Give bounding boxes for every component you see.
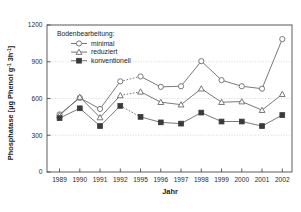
xtick-label-2001: 2001 [255,176,270,183]
datapoint-konventionell-2000 [239,119,244,124]
xtick-label-1997: 1997 [174,176,189,183]
datapoint-minimal-2001 [259,86,264,91]
datapoint-minimal-2000 [239,84,244,89]
xtick-label-1999: 1999 [214,176,229,183]
ytick-label-0: 0 [39,168,43,175]
datapoint-minimal-1992 [118,79,123,84]
xtick-label-1990: 1990 [72,176,87,183]
datapoint-konventionell-2001 [260,124,265,129]
datapoint-minimal-2002 [280,36,285,41]
legend-label-minimal: minimal [91,40,115,47]
legend-label-konventionell: konventionell [91,57,131,64]
datapoint-konventionell-1992 [118,103,123,108]
xtick-label-2002: 2002 [275,176,290,183]
datapoint-konventionell-1998 [199,110,204,115]
legend-label-reduziert: reduziert [91,48,118,55]
legend-marker-konventionell [77,58,82,63]
legend-title: Bodenbearbeitung: [57,30,115,38]
datapoint-konventionell-1999 [219,119,224,124]
ytick-label-600: 600 [31,95,42,102]
datapoint-konventionell-1991 [98,124,103,129]
y-axis-title-text: Phosphatase [µg Phenol g-1 3h-1] [6,45,15,160]
ytick-label-900: 900 [31,58,42,65]
datapoint-minimal-1999 [219,78,224,83]
datapoint-konventionell-1995 [138,114,143,119]
datapoint-konventionell-1990 [77,106,82,111]
datapoint-konventionell-1996 [158,120,163,125]
x-axis-title: Jahr [162,187,178,196]
xtick-label-1998: 1998 [194,176,209,183]
xtick-label-1995: 1995 [133,176,148,183]
legend-marker-minimal [76,41,81,46]
datapoint-minimal-1991 [97,106,102,111]
datapoint-konventionell-1989 [57,116,62,121]
datapoint-minimal-1995 [138,74,143,79]
y-axis-title: Phosphatase [µg Phenol g-1 3h-1] [6,45,15,160]
xtick-label-1989: 1989 [52,176,67,183]
xtick-label-1996: 1996 [153,176,168,183]
phosphatase-line-chart: 0300600900120019891990199119921995199619… [0,0,301,212]
xtick-label-1991: 1991 [93,176,108,183]
xtick-label-2000: 2000 [234,176,249,183]
chart-figure: 0300600900120019891990199119921995199619… [0,0,301,212]
ytick-label-1200: 1200 [28,21,43,28]
ytick-label-300: 300 [31,132,42,139]
datapoint-minimal-1996 [158,84,163,89]
datapoint-minimal-1997 [178,84,183,89]
segment-reduziert-1999 [222,102,242,103]
datapoint-konventionell-2002 [280,113,285,118]
xtick-label-1992: 1992 [113,176,128,183]
datapoint-konventionell-1997 [179,121,184,126]
datapoint-minimal-1998 [199,59,204,64]
